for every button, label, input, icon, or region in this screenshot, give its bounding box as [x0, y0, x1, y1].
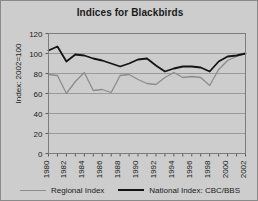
- x-tick-label: 1998: [203, 160, 212, 178]
- x-tick-label: 1982: [59, 160, 68, 178]
- y-tick-label: 60: [34, 90, 43, 99]
- y-tick-label: 80: [34, 70, 43, 79]
- y-tick-label: 0: [38, 150, 43, 159]
- x-tick-label: 1980: [42, 160, 51, 178]
- x-tick-label: 1986: [95, 160, 104, 178]
- gridlines: [46, 34, 246, 154]
- x-tick-label: 1984: [77, 160, 86, 178]
- legend-label-national: National Index: CBC/BBS: [149, 186, 240, 195]
- x-tick-label: 1992: [149, 160, 158, 178]
- x-tick-label: 1988: [113, 160, 122, 178]
- chart-card: Indices for Blackbirds Index: 2002=100 0…: [0, 0, 258, 201]
- chart-plot-area: 020406080100120 198019821984198619881990…: [1, 1, 258, 201]
- x-tick-label: 2002: [239, 160, 248, 178]
- y-tick-labels: 020406080100120: [29, 30, 43, 159]
- series-line: [49, 47, 246, 72]
- y-tick-label: 40: [34, 110, 43, 119]
- legend-label-regional: Regional Index: [51, 186, 104, 195]
- x-tick-label: 1996: [185, 160, 194, 178]
- x-tick-labels: 1980198219841986198819901992199419961998…: [42, 160, 248, 178]
- x-tick-label: 1990: [131, 160, 140, 178]
- chart-legend: Regional Index National Index: CBC/BBS: [11, 183, 249, 197]
- legend-swatch-regional: [20, 190, 46, 191]
- y-tick-label: 120: [29, 30, 43, 39]
- legend-swatch-national: [118, 189, 144, 191]
- y-tick-label: 20: [34, 130, 43, 139]
- x-tick-label: 1994: [167, 160, 176, 178]
- x-tick-label: 2000: [221, 160, 230, 178]
- y-tick-label: 100: [29, 50, 43, 59]
